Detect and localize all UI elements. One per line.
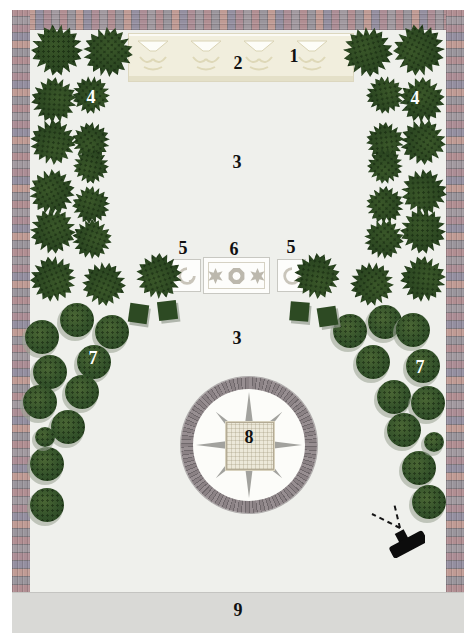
viewpoint-bench-icon xyxy=(384,522,425,558)
round-tree xyxy=(396,313,430,347)
conifer-tree xyxy=(130,247,188,305)
round-tree xyxy=(51,410,85,444)
round-tree xyxy=(60,303,94,337)
conifer-tree xyxy=(384,15,454,85)
garden-plan-canvas: 1234456537789 xyxy=(0,0,476,638)
square-shrub xyxy=(317,306,339,328)
round-tree xyxy=(333,314,367,348)
conifer-tree xyxy=(363,73,408,118)
conifer-tree xyxy=(391,110,455,174)
small-round-tree xyxy=(424,432,444,452)
sight-line-icon xyxy=(372,514,400,528)
conifer-tree xyxy=(291,250,344,303)
conifer-tree xyxy=(66,213,117,264)
conifer-tree xyxy=(29,75,78,124)
square-shrub xyxy=(157,300,178,321)
conifer-tree xyxy=(400,208,447,255)
round-tree xyxy=(387,413,421,447)
square-shrub xyxy=(289,301,310,322)
square-shrub xyxy=(128,303,149,324)
round-tree xyxy=(65,375,99,409)
round-tree xyxy=(356,345,390,379)
round-tree xyxy=(377,380,411,414)
round-tree xyxy=(95,315,129,349)
round-tree xyxy=(402,451,436,485)
conifer-tree xyxy=(341,253,403,315)
round-tree xyxy=(411,386,445,420)
small-round-tree xyxy=(35,427,55,447)
conifer-tree xyxy=(398,254,448,304)
viewpoint-marker xyxy=(345,492,425,558)
conifer-tree xyxy=(64,68,117,121)
conifer-tree xyxy=(400,168,448,216)
round-tree xyxy=(30,488,64,522)
round-tree xyxy=(23,385,57,419)
conifer-tree xyxy=(27,116,79,168)
round-tree xyxy=(25,320,59,354)
round-tree xyxy=(30,447,64,481)
conifer-tree xyxy=(73,17,144,88)
conifer-tree xyxy=(337,21,398,82)
round-tree xyxy=(33,355,67,389)
round-tree xyxy=(77,345,111,379)
conifer-tree xyxy=(23,249,83,309)
round-tree xyxy=(406,349,440,383)
sight-line-icon xyxy=(394,503,400,528)
conifer-tree xyxy=(31,24,83,76)
